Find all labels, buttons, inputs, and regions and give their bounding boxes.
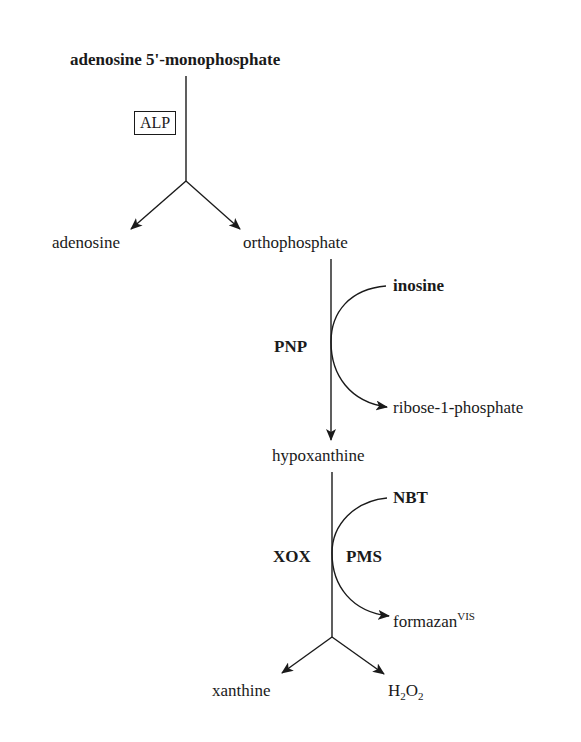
enzyme-alp-box: ALP [134, 111, 176, 135]
arrow-to-adenosine [131, 181, 186, 229]
node-formazan: formazanVIS [393, 606, 475, 632]
node-hypoxanthine: hypoxanthine [272, 446, 365, 466]
inosine-ribose-arc [331, 286, 387, 407]
formazan-vis-superscript: VIS [457, 610, 475, 622]
node-xanthine: xanthine [212, 681, 271, 701]
node-orthophosphate: orthophosphate [243, 233, 348, 253]
node-amp: adenosine 5'-monophosphate [70, 50, 280, 70]
node-h2o2: H2O2 [388, 681, 424, 706]
formazan-text: formazan [393, 612, 457, 631]
arrow-to-xanthine [282, 637, 332, 673]
h2o2-sub2: 2 [418, 690, 424, 702]
enzyme-xox: XOX [273, 547, 311, 567]
h2o2-o: O [406, 681, 418, 700]
node-ribose-1-phosphate: ribose-1-phosphate [393, 398, 523, 418]
mediator-pms: PMS [346, 547, 382, 567]
node-inosine: inosine [393, 276, 444, 296]
h2o2-h: H [388, 681, 400, 700]
node-nbt: NBT [393, 488, 428, 508]
arrow-to-h2o2 [332, 637, 384, 674]
arrow-to-orthophosphate [186, 181, 240, 229]
enzyme-pnp: PNP [274, 337, 307, 357]
pathway-arrows [0, 0, 581, 742]
node-adenosine: adenosine [52, 233, 120, 253]
